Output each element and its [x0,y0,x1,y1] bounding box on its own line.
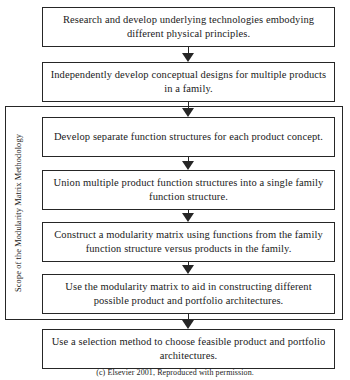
arrow-head-icon [182,213,194,222]
connector-arrow-down-4 [182,210,195,222]
connector-arrow-down-3 [182,157,195,170]
arrow-head-icon [182,53,194,62]
arrow-head-icon [182,161,194,170]
connector-arrow-down-6 [182,314,195,329]
flow-node-conceptual-designs: Independently develop conceptual designs… [42,62,335,102]
flow-node-construct-modularity-matrix: Construct a modularity matrix using func… [42,222,335,262]
flow-node-union-function-structures: Union multiple product function structur… [42,170,335,210]
scope-enclosure-label: Scope of the Modularity Matrix Methodolo… [5,106,31,320]
flow-node-label: Construct a modularity matrix using func… [49,228,328,256]
arrow-head-icon [182,108,194,117]
connector-arrow-down-2 [182,102,195,117]
copyright-caption: (c) Elsevier 2001, Reproduced with permi… [0,368,350,377]
connector-arrow-down-1 [182,47,195,62]
flow-node-label: Use the modularity matrix to aid in cons… [49,280,328,308]
flow-node-label: Develop separate function structures for… [49,130,328,144]
flow-node-label: Use a selection method to choose feasibl… [49,335,328,363]
flow-node-label: Union multiple product function structur… [49,176,328,204]
flow-node-label: Independently develop conceptual designs… [49,68,328,96]
arrow-head-icon [182,265,194,274]
flow-node-use-modularity-matrix: Use the modularity matrix to aid in cons… [42,274,335,314]
arrow-head-icon [182,320,194,329]
flowchart-diagram: Scope of the Modularity Matrix Methodolo… [0,0,350,380]
connector-arrow-down-5 [182,262,195,274]
flow-node-research-technologies: Research and develop underlying technolo… [42,7,335,47]
flow-node-selection-method: Use a selection method to choose feasibl… [42,329,335,369]
flow-node-label: Research and develop underlying technolo… [49,13,328,41]
flow-node-separate-function-structures: Develop separate function structures for… [42,117,335,157]
